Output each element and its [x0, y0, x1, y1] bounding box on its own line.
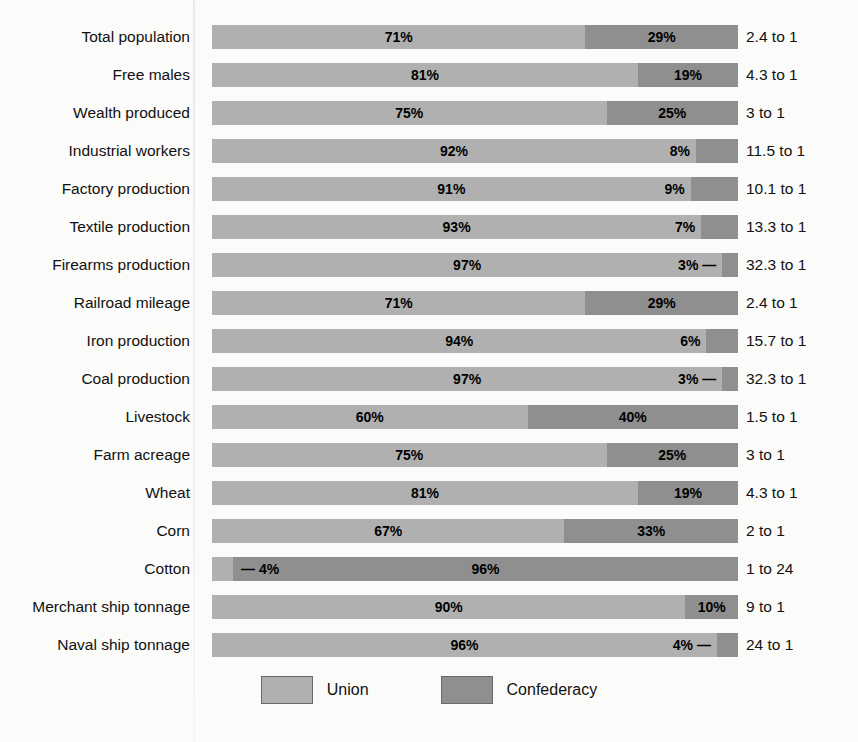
bar-segment-confederacy[interactable] — [722, 253, 738, 277]
bar-segment-confederacy[interactable] — [706, 329, 738, 353]
bar-segment-confederacy[interactable]: 40% — [528, 405, 738, 429]
stacked-bar: 81%19% — [212, 63, 738, 87]
stacked-bar: 94%6% — [212, 329, 738, 353]
bar-value-union: 67% — [374, 523, 402, 539]
legend-item-union[interactable]: Union — [261, 676, 369, 704]
row-label: Industrial workers — [0, 136, 200, 166]
row-label: Iron production — [0, 326, 200, 356]
chart-row: Wealth produced75%25%3 to 1 — [0, 98, 858, 136]
bar-segment-union[interactable]: 75% — [212, 443, 607, 467]
bar-segment-union[interactable]: 90% — [212, 595, 685, 619]
bar-value-union: 94% — [445, 333, 473, 349]
bar-segment-union[interactable]: 71% — [212, 291, 585, 315]
stacked-bar: 60%40% — [212, 405, 738, 429]
row-label: Firearms production — [0, 250, 200, 280]
legend-item-confederacy[interactable]: Confederacy — [441, 676, 598, 704]
row-label: Livestock — [0, 402, 200, 432]
bar-segment-confederacy[interactable]: 25% — [607, 101, 739, 125]
row-ratio: 9 to 1 — [746, 592, 785, 622]
bar-segment-confederacy[interactable]: 19% — [638, 63, 738, 87]
bar-segment-confederacy[interactable]: 29% — [585, 25, 738, 49]
stacked-bar-chart: Total population71%29%2.4 to 1Free males… — [0, 22, 858, 668]
stacked-bar: 97%3% — — [212, 367, 738, 391]
bar-value-union: 81% — [411, 67, 439, 83]
stacked-bar: 91%9% — [212, 177, 738, 201]
bar-value-confederacy: 6% — [680, 333, 700, 349]
stacked-bar: 71%29% — [212, 291, 738, 315]
bar-segment-union[interactable]: 97%3% — — [212, 253, 722, 277]
bar-segment-confederacy[interactable]: 25% — [607, 443, 739, 467]
bar-segment-confederacy[interactable]: 29% — [585, 291, 738, 315]
row-label: Total population — [0, 22, 200, 52]
bar-segment-union[interactable]: 92%8% — [212, 139, 696, 163]
row-ratio: 4.3 to 1 — [746, 60, 798, 90]
row-label: Wheat — [0, 478, 200, 508]
chart-row: Textile production93%7%13.3 to 1 — [0, 212, 858, 250]
bar-segment-union[interactable]: 91%9% — [212, 177, 691, 201]
legend-swatch-union — [261, 676, 313, 704]
bar-value-union: 97% — [453, 257, 481, 273]
bar-value-union: 96% — [450, 637, 478, 653]
bar-segment-union[interactable]: 94%6% — [212, 329, 706, 353]
bar-segment-confederacy[interactable] — [696, 139, 738, 163]
row-ratio: 13.3 to 1 — [746, 212, 806, 242]
bar-value-union: 92% — [440, 143, 468, 159]
bar-segment-confederacy[interactable]: — 4%96% — [233, 557, 738, 581]
row-ratio: 2.4 to 1 — [746, 288, 798, 318]
bar-segment-confederacy[interactable]: 10% — [685, 595, 738, 619]
bar-segment-confederacy[interactable] — [701, 215, 738, 239]
bar-segment-union[interactable]: 67% — [212, 519, 564, 543]
legend-label-confederacy: Confederacy — [507, 681, 598, 699]
bar-segment-confederacy[interactable] — [722, 367, 738, 391]
stacked-bar: 81%19% — [212, 481, 738, 505]
chart-row: Coal production97%3% —32.3 to 1 — [0, 364, 858, 402]
bar-value-union: 75% — [395, 105, 423, 121]
row-ratio: 15.7 to 1 — [746, 326, 806, 356]
chart-row: Iron production94%6%15.7 to 1 — [0, 326, 858, 364]
bar-segment-union[interactable]: 75% — [212, 101, 607, 125]
bar-segment-union[interactable]: 81% — [212, 481, 638, 505]
bar-value-confederacy: 3% — — [678, 371, 716, 387]
chart-row: Factory production91%9%10.1 to 1 — [0, 174, 858, 212]
bar-segment-union[interactable]: 96%4% — — [212, 633, 717, 657]
row-ratio: 10.1 to 1 — [746, 174, 806, 204]
bar-segment-union[interactable]: 81% — [212, 63, 638, 87]
row-label: Wealth produced — [0, 98, 200, 128]
chart-title-clipped — [0, 0, 858, 9]
stacked-bar: 90%10% — [212, 595, 738, 619]
bar-segment-union[interactable] — [212, 557, 233, 581]
row-ratio: 32.3 to 1 — [746, 364, 806, 394]
chart-row: Merchant ship tonnage90%10%9 to 1 — [0, 592, 858, 630]
bar-segment-union[interactable]: 93%7% — [212, 215, 701, 239]
bar-segment-confederacy[interactable]: 19% — [638, 481, 738, 505]
bar-segment-confederacy[interactable] — [717, 633, 738, 657]
row-ratio: 1.5 to 1 — [746, 402, 798, 432]
bar-value-union: 81% — [411, 485, 439, 501]
legend-swatch-confederacy — [441, 676, 493, 704]
row-label: Farm acreage — [0, 440, 200, 470]
bar-value-confederacy: 3% — — [678, 257, 716, 273]
row-label: Factory production — [0, 174, 200, 204]
row-label: Cotton — [0, 554, 200, 584]
stacked-bar: 92%8% — [212, 139, 738, 163]
chart-row: Cotton— 4%96%1 to 24 — [0, 554, 858, 592]
row-ratio: 2.4 to 1 — [746, 22, 798, 52]
bar-value-union: 90% — [435, 599, 463, 615]
bar-segment-confederacy[interactable] — [691, 177, 738, 201]
bar-value-confederacy: 19% — [674, 67, 702, 83]
bar-value-confederacy: 19% — [674, 485, 702, 501]
stacked-bar: 93%7% — [212, 215, 738, 239]
chart-row: Farm acreage75%25%3 to 1 — [0, 440, 858, 478]
chart-row: Free males81%19%4.3 to 1 — [0, 60, 858, 98]
bar-value-confederacy: 25% — [658, 447, 686, 463]
bar-segment-union[interactable]: 71% — [212, 25, 585, 49]
row-ratio: 1 to 24 — [746, 554, 793, 584]
bar-segment-union[interactable]: 60% — [212, 405, 528, 429]
row-ratio: 3 to 1 — [746, 440, 785, 470]
bar-segment-union[interactable]: 97%3% — — [212, 367, 722, 391]
bar-value-confederacy: 40% — [619, 409, 647, 425]
bar-segment-confederacy[interactable]: 33% — [564, 519, 738, 543]
stacked-bar: 96%4% — — [212, 633, 738, 657]
chart-row: Industrial workers92%8%11.5 to 1 — [0, 136, 858, 174]
row-label: Merchant ship tonnage — [0, 592, 200, 622]
